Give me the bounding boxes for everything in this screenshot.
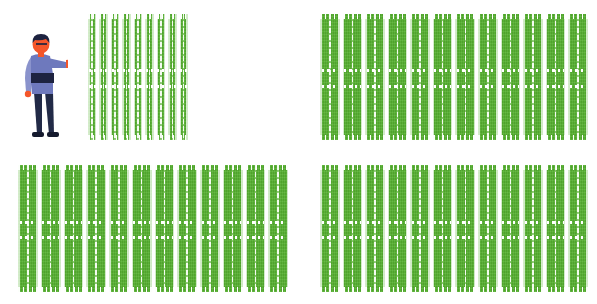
field-strip[interactable]: [320, 14, 340, 140]
field-hash-marks-upper: [412, 69, 428, 72]
field-strip[interactable]: [568, 165, 588, 292]
field-hash-marks-upper: [480, 221, 496, 224]
field-strip[interactable]: [132, 165, 152, 292]
arm-left-shape: [25, 57, 31, 92]
field-hash-marks-lower: [156, 236, 173, 239]
field-strip[interactable]: [18, 165, 38, 292]
field-sideline-right: [361, 14, 363, 140]
field-hash-marks-upper: [525, 221, 541, 224]
field-strip[interactable]: [86, 165, 106, 292]
field-hash-marks-lower: [412, 236, 428, 239]
field-strip[interactable]: [501, 14, 521, 140]
field-sideline-left: [388, 165, 390, 292]
field-block-bottom-left[interactable]: [18, 165, 288, 292]
field-sideline-right: [519, 165, 521, 292]
hand-pointing-shape: [66, 60, 68, 68]
field-sideline-right: [564, 14, 566, 140]
field-hash-marks-upper: [344, 221, 360, 224]
face-eyes-shape: [36, 43, 47, 45]
field-sideline-right: [127, 165, 129, 292]
field-hash-marks-lower: [389, 85, 405, 88]
field-strip[interactable]: [180, 14, 188, 140]
field-strip[interactable]: [64, 165, 84, 292]
field-yard-line: [419, 14, 421, 140]
field-sideline-right: [82, 165, 84, 292]
field-sideline-right: [496, 14, 498, 140]
field-sideline-left: [320, 165, 322, 292]
shirt-band-shape: [30, 73, 54, 83]
field-strip[interactable]: [501, 165, 521, 292]
field-sideline-right: [496, 165, 498, 292]
field-strip[interactable]: [433, 14, 453, 140]
field-hash-marks-upper: [502, 221, 518, 224]
field-strip[interactable]: [365, 14, 385, 140]
field-yard-line: [352, 165, 354, 292]
field-strip[interactable]: [546, 165, 566, 292]
field-strip[interactable]: [155, 165, 175, 292]
field-strip[interactable]: [268, 165, 288, 292]
field-sideline-left: [157, 14, 159, 140]
field-sideline-right: [36, 165, 38, 292]
field-strip[interactable]: [177, 165, 197, 292]
field-yard-line: [114, 14, 116, 140]
field-strip[interactable]: [246, 165, 266, 292]
field-strip[interactable]: [455, 165, 475, 292]
field-strip[interactable]: [568, 14, 588, 140]
field-strip[interactable]: [523, 165, 543, 292]
field-strip[interactable]: [410, 14, 430, 140]
field-block-top-right[interactable]: [320, 14, 588, 140]
field-strip[interactable]: [523, 14, 543, 140]
field-strip[interactable]: [111, 14, 119, 140]
field-yard-line: [397, 14, 399, 140]
field-strip[interactable]: [157, 14, 165, 140]
field-strip[interactable]: [343, 165, 363, 292]
field-strip[interactable]: [200, 165, 220, 292]
field-sideline-right: [451, 14, 453, 140]
field-hash-marks-lower: [457, 85, 473, 88]
person-figure: [12, 30, 68, 142]
field-strip[interactable]: [365, 165, 385, 292]
field-strip[interactable]: [478, 14, 498, 140]
field-sideline-right: [129, 14, 131, 140]
field-strip[interactable]: [455, 14, 475, 140]
field-strip[interactable]: [88, 14, 96, 140]
field-strip[interactable]: [223, 165, 243, 292]
field-hash-marks-upper: [20, 221, 37, 224]
field-hash-marks-lower: [65, 236, 82, 239]
field-strip[interactable]: [168, 14, 176, 140]
field-block-bottom-right[interactable]: [320, 165, 588, 292]
field-yard-line: [73, 165, 75, 292]
field-hash-marks-lower: [270, 236, 287, 239]
field-sideline-right: [175, 14, 177, 140]
field-yard-line: [183, 14, 185, 140]
field-sideline-left: [111, 14, 113, 140]
field-strip[interactable]: [343, 14, 363, 140]
field-strip[interactable]: [433, 165, 453, 292]
field-strip[interactable]: [99, 14, 107, 140]
field-strip[interactable]: [410, 165, 430, 292]
field-strip[interactable]: [478, 165, 498, 292]
field-sideline-right: [383, 165, 385, 292]
field-yard-line: [209, 165, 211, 292]
field-hash-marks-lower: [322, 85, 338, 88]
field-hash-marks-lower: [389, 236, 405, 239]
field-hash-marks-lower: [434, 85, 450, 88]
field-sideline-left: [109, 165, 111, 292]
field-strip[interactable]: [388, 14, 408, 140]
field-hash-marks-lower: [146, 85, 153, 88]
field-strip[interactable]: [41, 165, 61, 292]
field-block-top-left[interactable]: [88, 14, 188, 140]
field-strip[interactable]: [145, 14, 153, 140]
field-yard-line: [532, 165, 534, 292]
field-strip[interactable]: [109, 165, 129, 292]
field-strip[interactable]: [134, 14, 142, 140]
field-strip[interactable]: [546, 14, 566, 140]
field-strip[interactable]: [320, 165, 340, 292]
field-strip[interactable]: [388, 165, 408, 292]
field-hash-marks-upper: [146, 69, 153, 72]
field-yard-line: [510, 14, 512, 140]
field-yard-line: [329, 165, 331, 292]
field-hash-marks-upper: [570, 221, 586, 224]
field-hash-marks-upper: [547, 69, 563, 72]
field-strip[interactable]: [122, 14, 130, 140]
